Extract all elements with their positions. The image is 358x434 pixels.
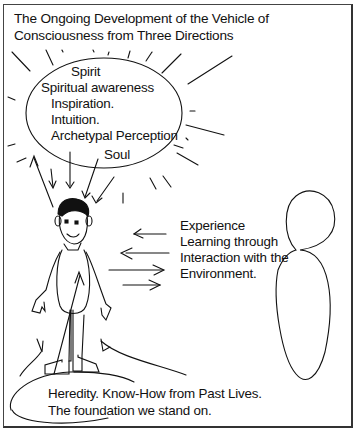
- spirit-text-block: Spirit Spiritual awareness Inspiration. …: [41, 64, 178, 144]
- spirit-item-awareness: Spiritual awareness: [41, 80, 178, 96]
- spirit-item-intuition: Intuition.: [41, 112, 178, 128]
- environment-text-block: Experience Learning through Interaction …: [180, 218, 288, 282]
- heredity-line-1: Heredity. Know-How from Past Lives.: [48, 385, 262, 402]
- environment-line-4: Environment.: [180, 266, 288, 282]
- soul-label: Soul: [104, 147, 130, 163]
- environment-line-3: Interaction with the: [180, 250, 288, 266]
- spirit-item-inspiration: Inspiration.: [41, 96, 178, 112]
- title-line-1: The Ongoing Development of the Vehicle o…: [14, 10, 269, 27]
- environment-line-1: Experience: [180, 218, 288, 234]
- environment-arrows: [109, 229, 169, 290]
- spirit-item-archetypal: Archetypal Perception: [41, 128, 178, 144]
- diagram-title: The Ongoing Development of the Vehicle o…: [14, 10, 269, 44]
- human-figure: [32, 199, 111, 374]
- title-line-2: Consciousness from Three Directions: [14, 27, 269, 44]
- heredity-line-2: The foundation we stand on.: [48, 402, 262, 419]
- spirit-heading: Spirit: [41, 64, 178, 80]
- environment-line-2: Learning through: [180, 234, 288, 250]
- heredity-text-block: Heredity. Know-How from Past Lives. The …: [48, 385, 262, 419]
